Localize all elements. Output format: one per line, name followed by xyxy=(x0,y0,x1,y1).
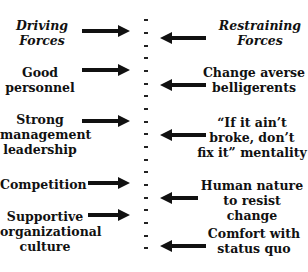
dash xyxy=(144,235,148,237)
dash xyxy=(144,83,148,85)
arrow-right-icon xyxy=(82,25,130,37)
dash xyxy=(144,184,148,186)
dash xyxy=(144,95,148,97)
dash xyxy=(144,108,148,110)
arrow-right-icon xyxy=(82,115,130,127)
driving-forces-header: Driving Forces xyxy=(6,18,78,48)
arrow-left-icon xyxy=(160,129,206,141)
restraining-force-human-nature: Human nature to resist change xyxy=(196,178,308,223)
dash xyxy=(144,57,148,59)
dash xyxy=(144,70,148,72)
dash xyxy=(144,133,148,135)
restraining-force-change-averse: Change averse belligerents xyxy=(200,65,308,95)
dash xyxy=(144,222,148,224)
dash xyxy=(144,146,148,148)
dash xyxy=(144,197,148,199)
dash xyxy=(144,159,148,161)
arrow-right-icon xyxy=(82,64,130,76)
driving-force-strong-management: Strong management leadership xyxy=(0,112,80,157)
dash xyxy=(144,45,148,47)
restraining-force-aint-broke: “If it ain’t broke, don’t fix it” mental… xyxy=(196,115,308,160)
dash xyxy=(144,247,148,249)
dash xyxy=(144,19,148,21)
arrow-right-icon xyxy=(88,209,130,221)
arrow-left-icon xyxy=(160,32,206,44)
driving-force-competition: Competition xyxy=(0,177,86,192)
dash xyxy=(144,171,148,173)
restraining-force-comfort-status-quo: Comfort with status quo xyxy=(200,226,308,256)
arrow-right-icon xyxy=(88,177,130,189)
dash xyxy=(144,121,148,123)
arrow-left-icon xyxy=(160,192,198,204)
arrow-left-icon xyxy=(160,79,206,91)
dash xyxy=(144,32,148,34)
restraining-forces-header: Restraining Forces xyxy=(212,18,308,48)
driving-force-supportive-culture: Supportive organizational culture xyxy=(0,209,90,254)
dash xyxy=(144,209,148,211)
arrow-left-icon xyxy=(160,240,206,252)
driving-force-good-personnel: Good personnel xyxy=(4,65,76,95)
